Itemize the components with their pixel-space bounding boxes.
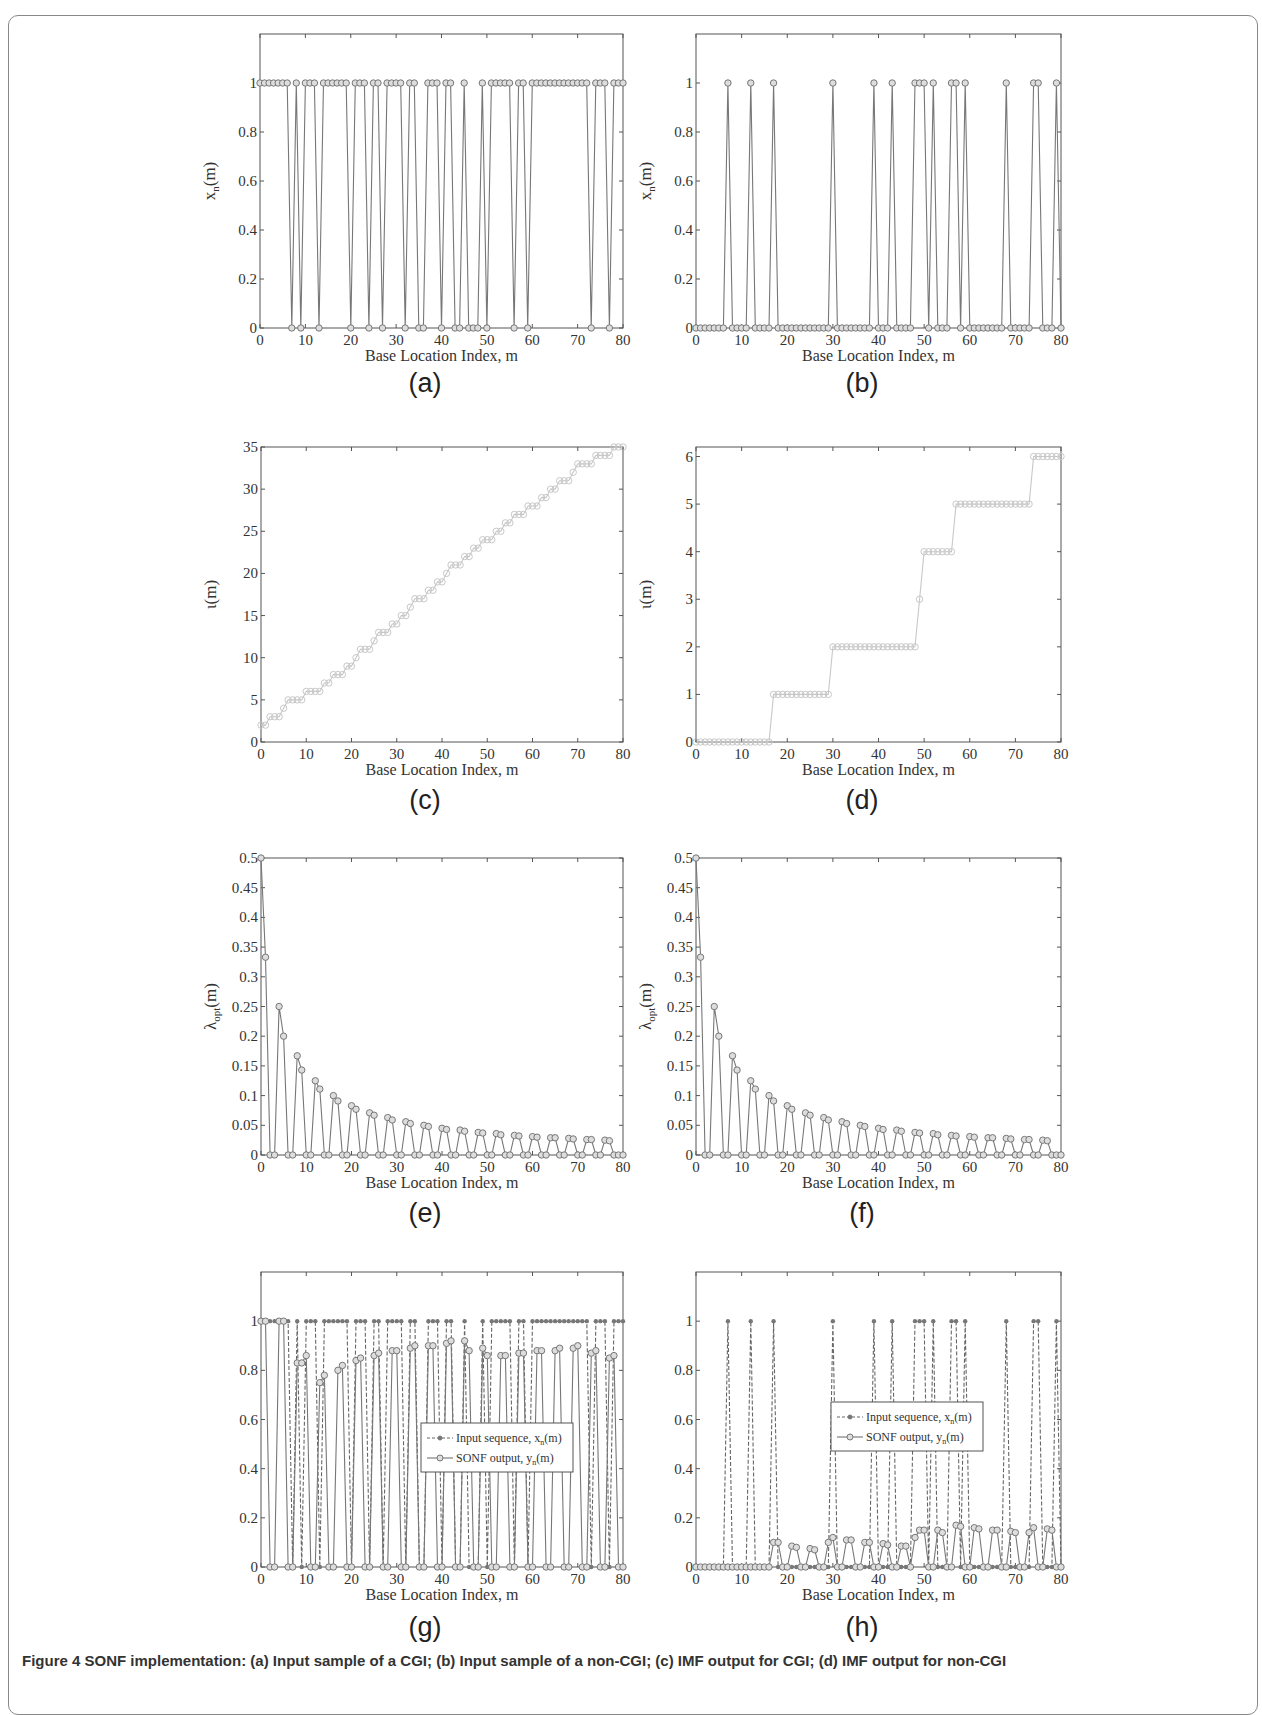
x-tick-label: 80 [1054,332,1069,348]
series-line [696,858,1061,1155]
legend: Input sequence, xn(m)SONF output, yn(m) [831,1402,983,1451]
y-tick-label: 0.25 [667,999,693,1015]
x-tick-label: 60 [525,1571,540,1587]
x-tick-label: 70 [1008,1571,1023,1587]
x-tick-label: 70 [570,332,585,348]
y-tick-label: 0.45 [667,880,693,896]
series-line [696,457,1061,743]
y-tick-label: 20 [243,565,258,581]
y-tick-label: 0 [251,734,259,750]
y-tick-label: 0 [251,1559,259,1575]
x-tick-label: 50 [480,746,495,762]
y-axis-label: xn(m) [636,162,657,201]
y-tick-label: 0.4 [674,222,693,238]
panel-label-c: (c) [385,785,465,816]
x-tick-label: 20 [780,746,795,762]
x-tick-label: 40 [435,746,450,762]
x-tick-label: 60 [962,746,977,762]
legend-entry: Input sequence, xn(m) [456,1431,562,1447]
x-tick-label: 0 [257,1159,265,1175]
x-tick-label: 70 [570,1159,585,1175]
y-tick-label: 0.2 [239,1510,258,1526]
y-tick-label: 0.6 [674,1412,693,1428]
y-tick-label: 4 [686,544,694,560]
chart-g: 0102030405060708000.20.40.60.81Base Loca… [239,1272,630,1603]
x-tick-label: 70 [570,1571,585,1587]
y-tick-label: 1 [686,1313,694,1329]
x-axis-label: Base Location Index, m [802,761,955,778]
x-tick-label: 20 [780,1571,795,1587]
axes-box [261,858,623,1155]
y-axis-label: λopt(m) [636,983,657,1030]
x-tick-label: 80 [1054,1159,1069,1175]
y-tick-label: 0 [686,734,694,750]
panel-label-h: (h) [822,1612,902,1643]
legend-entry: SONF output, yn(m) [456,1451,554,1467]
y-tick-label: 3 [686,591,694,607]
x-tick-label: 30 [825,332,840,348]
y-tick-label: 0.1 [674,1088,693,1104]
x-tick-label: 40 [871,746,886,762]
series-line [261,858,623,1155]
y-axis-label: xn(m) [200,162,221,201]
x-tick-label: 20 [780,332,795,348]
x-axis-label: Base Location Index, m [802,347,955,364]
x-axis-label: Base Location Index, m [802,1586,955,1603]
y-tick-label: 0 [250,320,258,336]
y-tick-label: 30 [243,481,258,497]
x-tick-label: 70 [1008,1159,1023,1175]
y-tick-label: 0.4 [238,222,257,238]
x-tick-label: 30 [825,746,840,762]
y-tick-label: 15 [243,608,258,624]
x-tick-label: 50 [480,1571,495,1587]
series-line [260,83,623,328]
chart-f: 0102030405060708000.050.10.150.20.250.30… [636,850,1069,1191]
axes-box [696,447,1061,742]
y-tick-label: 0.2 [674,271,693,287]
y-tick-label: 5 [251,692,259,708]
chart-a: 0102030405060708000.20.40.60.81Base Loca… [200,34,631,364]
y-tick-label: 0.05 [667,1117,693,1133]
figure-caption: Figure 4 SONF implementation: (a) Input … [22,1652,1242,1669]
x-tick-label: 0 [256,332,264,348]
x-tick-label: 30 [389,1571,404,1587]
x-tick-label: 40 [871,1571,886,1587]
y-tick-label: 0.4 [239,1461,258,1477]
y-tick-label: 0.2 [238,271,257,287]
x-tick-label: 40 [435,1571,450,1587]
x-tick-label: 20 [780,1159,795,1175]
x-tick-label: 70 [1008,332,1023,348]
y-tick-label: 0.4 [674,909,693,925]
x-tick-label: 20 [343,332,358,348]
y-tick-label: 0.4 [239,909,258,925]
x-tick-label: 50 [917,1159,932,1175]
x-tick-label: 30 [389,1159,404,1175]
x-tick-label: 50 [479,332,494,348]
y-tick-label: 0.25 [232,999,258,1015]
x-tick-label: 50 [917,332,932,348]
series-line [696,83,1061,328]
legend: Input sequence, xn(m)SONF output, yn(m) [421,1423,573,1472]
y-tick-label: 0.4 [674,1461,693,1477]
y-tick-label: 0.6 [239,1412,258,1428]
axes-box [696,858,1061,1155]
chart-d: 010203040506070800123456Base Location In… [636,447,1069,778]
x-tick-label: 30 [389,332,404,348]
y-tick-label: 0.05 [232,1117,258,1133]
x-tick-label: 80 [616,1159,631,1175]
y-tick-label: 0.5 [239,850,258,866]
x-tick-label: 0 [257,1571,265,1587]
x-tick-label: 60 [962,332,977,348]
y-tick-label: 1 [251,1313,259,1329]
x-tick-label: 0 [692,746,700,762]
x-tick-label: 50 [917,746,932,762]
x-tick-label: 0 [692,1571,700,1587]
x-tick-label: 10 [299,746,314,762]
x-tick-label: 70 [570,746,585,762]
x-tick-label: 20 [344,1159,359,1175]
x-tick-label: 10 [734,1159,749,1175]
panel-label-a: (a) [385,368,465,399]
y-tick-label: 0 [251,1147,259,1163]
y-tick-label: 0.2 [674,1510,693,1526]
y-tick-label: 10 [243,650,258,666]
